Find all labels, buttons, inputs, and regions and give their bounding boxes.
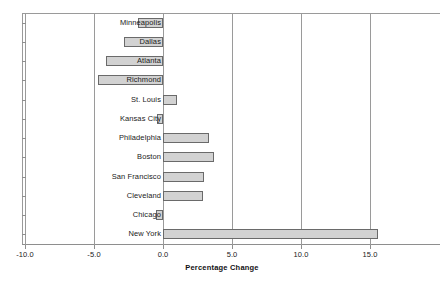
- bar: [163, 152, 214, 162]
- tick-mark: [370, 245, 371, 249]
- category-tick: [22, 23, 26, 24]
- category-tick: [22, 100, 26, 101]
- category-label: St. Louis: [131, 95, 161, 104]
- category-label: Minneapolis: [120, 18, 161, 27]
- x-tick-label: -10.0: [16, 250, 34, 259]
- x-tick-label: 5.0: [227, 250, 238, 259]
- x-axis-title: Percentage Change: [0, 263, 444, 272]
- x-tick-label: 0.0: [158, 250, 169, 259]
- category-tick: [22, 138, 26, 139]
- category-tick: [22, 42, 26, 43]
- category-label: New York: [129, 229, 162, 238]
- gridline-0-0: [163, 13, 164, 245]
- category-label: Kansas City: [120, 114, 161, 123]
- x-axis-line: [22, 244, 440, 245]
- gridline--5-0: [94, 13, 95, 245]
- bar-chart: -10.0-5.00.05.010.015.0 MinneapolisDalla…: [0, 0, 444, 281]
- gridline-10-0: [301, 13, 302, 245]
- bar: [163, 229, 378, 239]
- tick-mark: [301, 245, 302, 249]
- category-tick: [22, 215, 26, 216]
- category-tick: [22, 119, 26, 120]
- gridline-15-0: [370, 13, 371, 245]
- tick-mark: [163, 245, 164, 249]
- gridline--10-0: [25, 13, 26, 245]
- category-tick: [22, 196, 26, 197]
- category-tick: [22, 177, 26, 178]
- category-label: Dallas: [140, 37, 161, 46]
- bar: [163, 95, 177, 105]
- category-label: Atlanta: [137, 56, 161, 65]
- bar: [163, 172, 204, 182]
- category-tick: [22, 80, 26, 81]
- category-label: Chicago: [133, 210, 161, 219]
- tick-mark: [232, 245, 233, 249]
- tick-mark: [94, 245, 95, 249]
- plot-frame: [22, 13, 440, 245]
- x-tick-label: 10.0: [294, 250, 309, 259]
- category-tick: [22, 61, 26, 62]
- bar: [163, 191, 203, 201]
- x-tick-label: 15.0: [363, 250, 378, 259]
- category-label: Cleveland: [127, 191, 161, 200]
- x-tick-label: -5.0: [87, 250, 100, 259]
- category-tick: [22, 234, 26, 235]
- gridline-5-0: [232, 13, 233, 245]
- category-label: Boston: [137, 152, 161, 161]
- tick-mark: [25, 245, 26, 249]
- category-label: San Francisco: [112, 172, 161, 181]
- bar: [163, 133, 209, 143]
- category-label: Richmond: [126, 75, 161, 84]
- category-label: Philadelphia: [119, 133, 161, 142]
- category-tick: [22, 157, 26, 158]
